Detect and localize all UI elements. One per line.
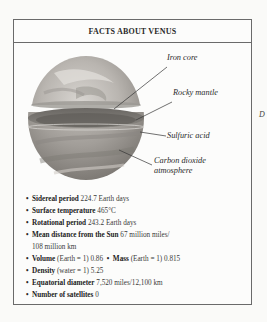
fact-label: Mass <box>113 255 129 263</box>
fact-value: (water = 1) 5.25 <box>57 267 103 275</box>
fact-value: 243.2 Earth days <box>88 219 137 227</box>
fact-value: 465°C <box>97 207 115 215</box>
fact-item: •Density (water = 1) 5.25 <box>26 265 180 277</box>
venus-facts-box: FACTS ABOUT VENUS <box>13 19 252 305</box>
label-carbon-dioxide: Carbon dioxide <box>154 156 206 165</box>
fact-item: •Volume (Earth = 1) 0.86 •Mass (Earth = … <box>26 253 180 265</box>
venus-planet-icon <box>14 43 251 191</box>
fact-item-continuation: 108 million km <box>26 241 180 253</box>
fact-item: •Equatorial diameter 7,520 miles/12,100 … <box>26 277 180 289</box>
fact-item: •Sidereal period 224.7 Earth days <box>26 193 180 205</box>
fact-value: (Earth = 1) 0.815 <box>131 255 181 263</box>
fact-value: (Earth = 1) 0.86 <box>57 255 103 263</box>
fact-item: •Mean distance from the Sun 67 million m… <box>26 229 180 241</box>
venus-cutaway-illustration: Iron core Rocky mantle Sulfuric acid Car… <box>14 43 251 191</box>
fact-item: •Surface temperature 465°C <box>26 205 180 217</box>
fact-label: Density <box>32 267 55 275</box>
fact-item: •Rotational period 243.2 Earth days <box>26 217 180 229</box>
fact-label: Surface temperature <box>32 207 96 215</box>
fact-value: 224.7 Earth days <box>81 195 130 203</box>
fact-value: 67 million miles/ <box>120 231 169 239</box>
fact-value: 7,520 miles/12,100 km <box>96 279 162 287</box>
fact-value: 0 <box>95 291 99 299</box>
cropped-edge-text: D <box>259 110 265 119</box>
fact-label: Volume <box>32 255 55 263</box>
label-iron-core: Iron core <box>167 53 198 62</box>
label-sulfuric-acid: Sulfuric acid <box>167 131 210 140</box>
label-atmosphere: atmosphere <box>154 166 192 175</box>
fact-value-continuation: 108 million km <box>32 243 76 251</box>
fact-label: Equatorial diameter <box>32 279 94 287</box>
factbox-title: FACTS ABOUT VENUS <box>14 20 251 43</box>
page: FACTS ABOUT VENUS <box>0 0 267 322</box>
facts-list: •Sidereal period 224.7 Earth days •Surfa… <box>26 193 180 301</box>
fact-label: Number of satellites <box>32 291 93 299</box>
label-rocky-mantle: Rocky mantle <box>173 88 218 97</box>
fact-label: Mean distance from the Sun <box>32 231 119 239</box>
fact-label: Sidereal period <box>32 195 79 203</box>
fact-label: Rotational period <box>32 219 86 227</box>
fact-item: •Number of satellites 0 <box>26 289 180 301</box>
